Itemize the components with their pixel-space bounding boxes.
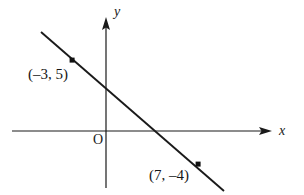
- y-axis-label: y: [114, 5, 120, 19]
- point-label-b: (7, –4): [149, 168, 189, 183]
- point-marker-b: [196, 162, 201, 167]
- graph-canvas: [0, 0, 304, 195]
- origin-label: O: [93, 133, 103, 147]
- point-marker-a: [70, 58, 75, 63]
- point-label-a: (–3, 5): [28, 67, 68, 82]
- x-axis-label: x: [279, 124, 285, 138]
- plotted-line: [41, 32, 224, 191]
- coordinate-plane-figure: y x O (–3, 5) (7, –4): [0, 0, 304, 195]
